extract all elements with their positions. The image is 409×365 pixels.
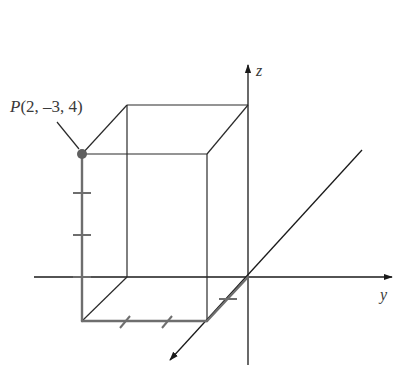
point-p	[77, 149, 87, 159]
tick-marks	[73, 193, 237, 328]
box-edges	[82, 105, 248, 321]
leader-line	[57, 122, 79, 149]
z-axis-label: z	[255, 62, 263, 79]
point-label: P(2, –3, 4)	[9, 97, 83, 116]
diagram-canvas: P(2, –3, 4) z y	[0, 0, 409, 365]
x-axis	[170, 150, 362, 360]
y-axis-label: y	[378, 286, 388, 304]
3d-coordinate-diagram: P(2, –3, 4) z y	[0, 0, 409, 365]
